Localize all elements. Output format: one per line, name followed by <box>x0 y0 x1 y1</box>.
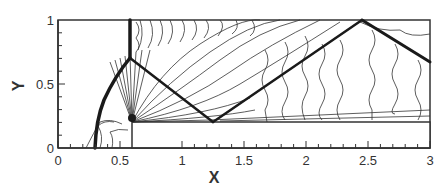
x-tick-label: 0.5 <box>111 153 129 168</box>
y-tick-label: 0.5 <box>36 77 54 92</box>
x-tick-label: 1 <box>178 153 185 168</box>
x-tick-label: 0 <box>54 153 61 168</box>
x-tick-label: 2.5 <box>359 153 377 168</box>
x-tick-label: 2 <box>302 153 309 168</box>
y-tick-label: 0 <box>47 141 54 156</box>
x-tick-labels: 0 0.5 1 1.5 2 2.5 3 <box>54 153 433 168</box>
x-tick-label: 1.5 <box>235 153 253 168</box>
expansion-corner <box>128 114 136 122</box>
contour-plot: 0 0.5 1 1.5 2 2.5 3 X 0 0.5 1 Y <box>0 0 448 188</box>
y-tick-labels: 0 0.5 1 <box>36 13 54 156</box>
x-axis-title: X <box>209 169 220 186</box>
y-tick-label: 1 <box>47 13 54 28</box>
y-axis-title: Y <box>10 80 27 91</box>
x-tick-label: 3 <box>426 153 433 168</box>
